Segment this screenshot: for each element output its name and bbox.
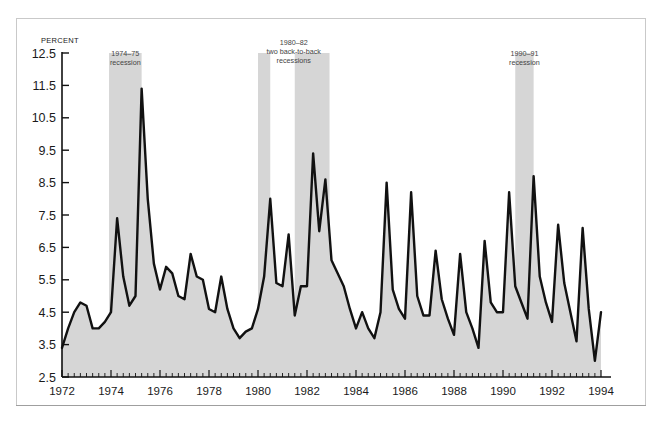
- x-tick-label-2: 1976: [147, 385, 173, 397]
- y-tick-label-4: 6.5: [39, 241, 56, 255]
- annotation-rec3-line-1: recession: [509, 58, 540, 67]
- y-tick-label-9: 11.5: [33, 79, 56, 93]
- y-tick-label-2: 4.5: [39, 306, 56, 320]
- y-axis-title: PERCENT: [41, 36, 79, 45]
- line-chart: 2.53.54.55.56.57.58.59.510.511.512.5 197…: [0, 0, 662, 423]
- y-tick-label-3: 5.5: [39, 273, 56, 287]
- annotation-rec2-line-1: two back-to-back: [267, 47, 322, 56]
- annotation-rec3-line-0: 1990–91: [510, 49, 538, 58]
- x-tick-labels-layer: 1972197419761978198019821984198619881990…: [49, 385, 614, 397]
- y-tick-label-7: 9.5: [39, 144, 56, 158]
- x-tick-label-3: 1978: [196, 385, 222, 397]
- x-tick-label-9: 1990: [490, 385, 516, 397]
- x-tick-label-11: 1994: [588, 385, 614, 397]
- annotation-rec2-line-2: recessions: [277, 56, 312, 65]
- y-tick-labels-layer: 2.53.54.55.56.57.58.59.510.511.512.5: [32, 47, 56, 385]
- y-tick-label-5: 7.5: [39, 209, 56, 223]
- y-tick-label-8: 10.5: [32, 111, 56, 125]
- y-tick-label-6: 8.5: [39, 176, 56, 190]
- x-tick-label-6: 1984: [343, 385, 369, 397]
- x-tick-label-5: 1982: [294, 385, 320, 397]
- x-tick-label-10: 1992: [539, 385, 565, 397]
- x-tick-label-4: 1980: [245, 385, 271, 397]
- y-tick-label-0: 2.5: [39, 371, 56, 385]
- figure-root: 2.53.54.55.56.57.58.59.510.511.512.5 197…: [0, 0, 662, 423]
- annotation-rec1-line-1: recession: [110, 58, 141, 67]
- annotation-rec2-line-0: 1980–82: [280, 38, 308, 47]
- x-tick-label-1: 1974: [98, 385, 124, 397]
- x-tick-label-7: 1986: [392, 385, 418, 397]
- x-tick-label-8: 1988: [441, 385, 467, 397]
- y-tick-label-10: 12.5: [32, 47, 56, 61]
- annotation-rec1-line-0: 1974–75: [111, 49, 139, 58]
- y-tick-label-1: 3.5: [39, 338, 56, 352]
- x-tick-label-0: 1972: [49, 385, 75, 397]
